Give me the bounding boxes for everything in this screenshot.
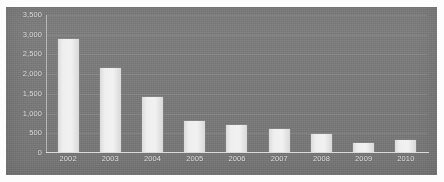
bars-group: 200220032004200520062007200820092010 bbox=[47, 15, 427, 152]
bar-slot: 2006 bbox=[216, 15, 258, 152]
bar-chart-figure: 05001,0001,5002,0002,5003,0003,500 20022… bbox=[0, 0, 444, 182]
y-axis-tick-label: 0 bbox=[38, 149, 42, 157]
bar-slot: 2009 bbox=[343, 15, 385, 152]
bar bbox=[269, 129, 290, 152]
bar bbox=[100, 68, 121, 152]
bar-slot: 2005 bbox=[174, 15, 216, 152]
bar bbox=[353, 143, 374, 152]
bar-slot: 2008 bbox=[300, 15, 342, 152]
bar-slot: 2007 bbox=[258, 15, 300, 152]
y-axis-tick-label: 3,000 bbox=[23, 31, 42, 39]
y-axis-tick-label: 2,500 bbox=[23, 51, 42, 59]
chart-plot-background: 05001,0001,5002,0002,5003,0003,500 20022… bbox=[6, 7, 437, 175]
bar-slot: 2010 bbox=[385, 15, 427, 152]
y-axis-tick-label: 1,000 bbox=[23, 110, 42, 118]
x-axis-tick-label: 2005 bbox=[186, 155, 203, 163]
bar bbox=[58, 39, 79, 153]
bar bbox=[395, 140, 416, 152]
x-axis-tick-label: 2002 bbox=[60, 155, 77, 163]
bar bbox=[142, 97, 163, 152]
x-axis-tick-label: 2010 bbox=[397, 155, 414, 163]
bar bbox=[184, 121, 205, 152]
x-axis-tick-label: 2008 bbox=[313, 155, 330, 163]
bar bbox=[226, 125, 247, 152]
bar-slot: 2004 bbox=[131, 15, 173, 152]
bar-slot: 2002 bbox=[47, 15, 89, 152]
bar-slot: 2003 bbox=[89, 15, 131, 152]
y-axis-tick-label: 2,000 bbox=[23, 70, 42, 78]
x-axis-tick-label: 2007 bbox=[271, 155, 288, 163]
x-axis-tick-label: 2006 bbox=[228, 155, 245, 163]
x-axis-tick-label: 2004 bbox=[144, 155, 161, 163]
y-axis-tick-label: 1,500 bbox=[23, 90, 42, 98]
y-axis-tick-label: 500 bbox=[29, 130, 42, 138]
x-axis-tick-label: 2009 bbox=[355, 155, 372, 163]
y-axis-tick-label: 3,500 bbox=[23, 11, 42, 19]
plot-area: 05001,0001,5002,0002,5003,0003,500 20022… bbox=[46, 15, 427, 153]
x-axis-tick-label: 2003 bbox=[102, 155, 119, 163]
x-axis-line bbox=[46, 152, 429, 153]
bar bbox=[311, 134, 332, 152]
